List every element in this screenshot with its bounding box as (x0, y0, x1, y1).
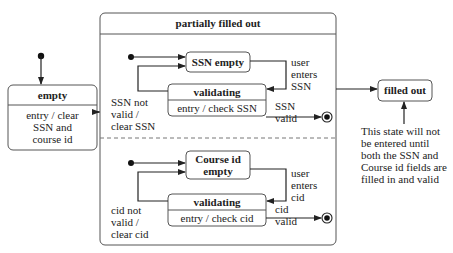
svg-text:valid /: valid / (111, 216, 140, 228)
state-empty: empty entry / clear SSN and course id (8, 85, 97, 150)
svg-text:cid: cid (291, 191, 305, 203)
svg-text:cid: cid (275, 203, 289, 215)
svg-text:both the SSN and: both the SSN and (361, 149, 439, 161)
svg-text:Course id fields are: Course id fields are (361, 161, 447, 173)
composite-title: partially filled out (176, 17, 261, 29)
svg-text:clear cid: clear cid (111, 228, 149, 240)
svg-text:clear SSN: clear SSN (111, 120, 155, 132)
svg-text:Course id: Course id (195, 153, 241, 165)
final-state-cid (322, 213, 332, 223)
state-name: empty (38, 89, 68, 101)
svg-text:valid /: valid / (111, 108, 140, 120)
svg-text:validating: validating (193, 196, 241, 208)
initial-state-main (38, 53, 44, 84)
svg-text:SSN and: SSN and (33, 121, 72, 133)
final-state-ssn (322, 112, 332, 122)
svg-text:course id: course id (32, 133, 73, 145)
svg-text:SSN empty: SSN empty (192, 56, 245, 68)
svg-text:validating: validating (193, 86, 241, 98)
svg-text:SSN not: SSN not (111, 96, 148, 108)
svg-text:user: user (291, 167, 310, 179)
svg-text:This state will not: This state will not (361, 125, 440, 137)
svg-text:filled out: filled out (384, 84, 426, 96)
svg-text:entry / clear: entry / clear (26, 109, 79, 121)
svg-text:entry / check SSN: entry / check SSN (177, 102, 257, 114)
state-diagram: empty entry / clear SSN and course id pa… (0, 0, 453, 253)
svg-text:valid: valid (275, 215, 297, 227)
svg-text:valid: valid (275, 112, 297, 124)
state-filled-out: filled out (378, 80, 432, 101)
svg-text:entry / check cid: entry / check cid (181, 212, 254, 224)
svg-text:cid not: cid not (111, 204, 141, 216)
svg-text:SSN: SSN (275, 100, 295, 112)
svg-text:enters: enters (291, 179, 317, 191)
svg-text:filled in and valid: filled in and valid (361, 173, 439, 185)
svg-text:SSN: SSN (291, 80, 311, 92)
svg-text:enters: enters (291, 68, 317, 80)
svg-text:empty: empty (203, 165, 233, 177)
svg-text:user: user (291, 56, 310, 68)
svg-text:be entered until: be entered until (361, 137, 429, 149)
note-filled-out: This state will not be entered until bot… (361, 102, 447, 185)
